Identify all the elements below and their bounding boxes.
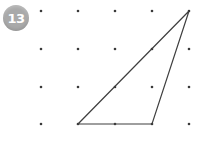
- grid-dot: [114, 10, 117, 13]
- grid-dot: [40, 123, 43, 126]
- problem-number-badge: 13: [3, 5, 29, 31]
- grid-dot: [77, 10, 80, 13]
- dot-grid-layer: [40, 10, 191, 126]
- grid-dot: [151, 10, 154, 13]
- grid-dot: [40, 48, 43, 51]
- grid-dot: [188, 48, 191, 51]
- figure-canvas: 13: [0, 0, 199, 161]
- grid-dot: [151, 86, 154, 89]
- grid-dot: [188, 86, 191, 89]
- grid-dot: [40, 86, 43, 89]
- shapes-layer: [78, 11, 189, 124]
- triangle-shape: [78, 11, 189, 124]
- grid-dot: [188, 123, 191, 126]
- grid-dot: [40, 10, 43, 13]
- grid-dot: [77, 86, 80, 89]
- problem-number-label: 13: [3, 5, 29, 31]
- grid-dot: [114, 48, 117, 51]
- grid-dot: [77, 48, 80, 51]
- dot-grid-figure: [0, 0, 199, 161]
